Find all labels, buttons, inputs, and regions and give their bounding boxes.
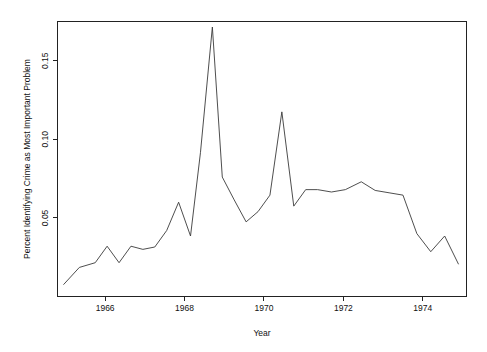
x-tick-label: 1974 (413, 303, 432, 313)
x-tick-label: 1972 (334, 303, 353, 313)
x-tick-label: 1968 (175, 303, 194, 313)
chart-figure: 0.050.100.15 19661968197019721974 Year P… (0, 0, 487, 352)
y-tick-label: 0.15 (40, 52, 50, 69)
line-chart: 0.050.100.15 19661968197019721974 Year P… (0, 0, 487, 352)
plot-frame (58, 22, 467, 297)
x-tick-label: 1966 (96, 303, 115, 313)
data-series-line (63, 27, 458, 285)
axis-frame (58, 22, 467, 297)
x-axis-title: Year (253, 328, 270, 338)
x-axis-ticks: 19661968197019721974 (96, 297, 433, 313)
y-axis-ticks: 0.050.100.15 (40, 52, 58, 226)
y-tick-label: 0.10 (40, 131, 50, 148)
y-axis-title: Percent Identifying Crime as Most Import… (22, 59, 32, 259)
y-tick-label: 0.05 (40, 209, 50, 226)
x-tick-label: 1970 (255, 303, 274, 313)
